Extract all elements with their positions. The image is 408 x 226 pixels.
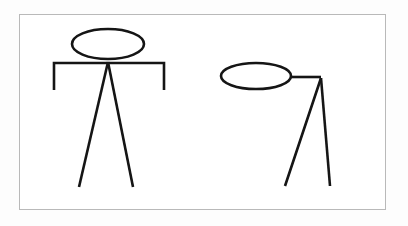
figure-left-leg-left xyxy=(79,62,108,187)
figure-left xyxy=(54,29,164,187)
figure-left-leg-right xyxy=(108,62,133,187)
figure-right-head-ellipse xyxy=(221,63,291,89)
figure-left-head-ellipse xyxy=(72,29,144,59)
stick-figures-group xyxy=(0,0,408,226)
figure-right xyxy=(221,63,330,186)
diagram-canvas xyxy=(0,0,408,226)
figure-right-leg-left xyxy=(285,78,321,186)
figure-right-leg-right xyxy=(321,78,330,186)
